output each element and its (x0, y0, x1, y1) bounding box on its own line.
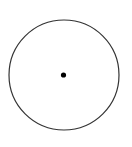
center-point (61, 72, 66, 77)
circle-diagram (0, 0, 132, 147)
